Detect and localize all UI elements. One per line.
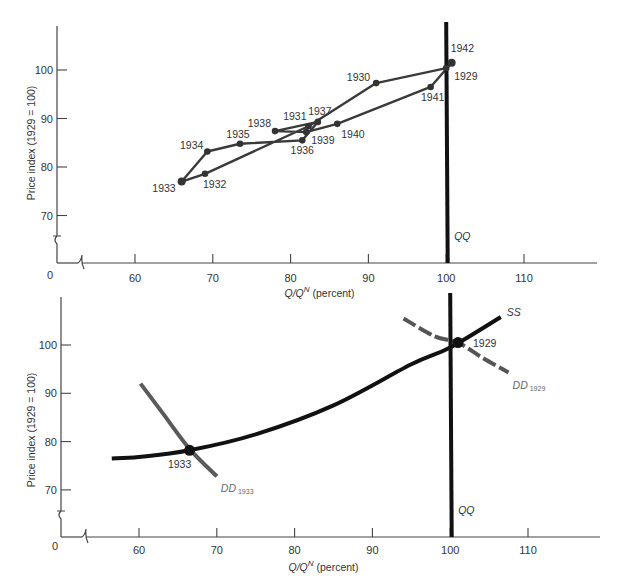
bottom-chart-panel: 607080901001107080901000Q/QN(percent)Pri… (25, 293, 600, 573)
year-label-1942: 1942 (451, 42, 475, 54)
ss-label: SS (507, 306, 521, 318)
dd1929-label: DD1929 (513, 379, 546, 392)
chart-canvas: 607080901001107080901000Q/QN(percent)Pri… (0, 0, 621, 587)
data-point-1934 (204, 148, 211, 155)
year-label-1940: 1940 (341, 128, 365, 140)
data-point-1933 (178, 178, 186, 186)
y-axis-break-icon (57, 511, 65, 537)
data-point-1932 (202, 170, 209, 177)
x-axis-break-icon (78, 255, 597, 269)
x-tick-label: 100 (437, 272, 455, 284)
y-tick-label: 90 (45, 387, 57, 399)
x-axis-title: Q/QN(percent) (284, 285, 354, 299)
data-point-1931 (305, 123, 312, 130)
y-axis-title: Price index (1929 = 100) (25, 373, 37, 488)
data-point-1940 (334, 121, 341, 128)
top-chart-panel: 607080901001107080901000Q/QN(percent)Pri… (25, 22, 597, 299)
y-axis-title: Price index (1929 = 100) (25, 86, 37, 201)
origin-label: 0 (47, 269, 53, 281)
y-tick-label: 80 (41, 161, 53, 173)
data-point-1939 (303, 129, 310, 136)
year-label-1930: 1930 (347, 71, 371, 83)
x-tick-label: 90 (362, 272, 374, 284)
data-point-1941 (427, 84, 434, 91)
qq-vertical-line (446, 22, 448, 263)
year-label-1933: 1933 (152, 182, 176, 194)
year-label-1939: 1939 (311, 134, 335, 146)
year-label-1934: 1934 (180, 139, 204, 151)
x-axis-break-icon (82, 529, 600, 543)
x-tick-label: 110 (519, 544, 537, 556)
y-tick-label: 70 (41, 210, 53, 222)
year-label-1929: 1929 (454, 70, 478, 82)
x-tick-label: 90 (366, 544, 378, 556)
x-tick-label: 70 (207, 272, 219, 284)
year-label-1931: 1931 (283, 110, 307, 122)
data-point-1936 (299, 137, 306, 144)
origin-label: 0 (52, 540, 58, 552)
qq-vertical-line (450, 293, 452, 537)
y-tick-label: 100 (35, 64, 53, 76)
data-point-1942 (448, 59, 456, 67)
data-point-1929 (443, 65, 450, 72)
y-tick-label: 90 (41, 113, 53, 125)
x-tick-label: 60 (133, 544, 145, 556)
qq-label: QQ (458, 504, 474, 516)
data-point-1938 (272, 128, 279, 135)
y-tick-label: 70 (45, 484, 57, 496)
year-label-1941: 1941 (421, 91, 445, 103)
x-tick-label: 70 (211, 544, 223, 556)
equilibrium-point-1933 (184, 445, 195, 456)
x-tick-label: 80 (288, 544, 300, 556)
dd1933-label: DD1933 (221, 482, 254, 495)
x-tick-label: 100 (441, 544, 459, 556)
x-tick-label: 60 (129, 272, 141, 284)
x-tick-label: 80 (284, 272, 296, 284)
y-axis-break-icon (53, 236, 61, 263)
x-tick-label: 110 (515, 272, 533, 284)
year-label-1937: 1937 (308, 105, 332, 117)
data-point-1935 (237, 140, 244, 147)
x-axis-title: Q/QN(percent) (288, 559, 358, 573)
year-label-1936: 1936 (291, 144, 315, 156)
y-tick-label: 80 (45, 436, 57, 448)
y-tick-label: 100 (39, 339, 57, 351)
equilibrium-label-1929: 1929 (473, 337, 497, 349)
equilibrium-label-1933: 1933 (168, 458, 192, 470)
equilibrium-point-1929 (452, 337, 463, 348)
year-label-1935: 1935 (226, 128, 250, 140)
data-point-1930 (373, 80, 380, 87)
qq-label: QQ (454, 230, 470, 242)
year-label-1932: 1932 (203, 178, 227, 190)
year-label-1938: 1938 (248, 117, 272, 129)
data-point-1937 (315, 119, 322, 126)
